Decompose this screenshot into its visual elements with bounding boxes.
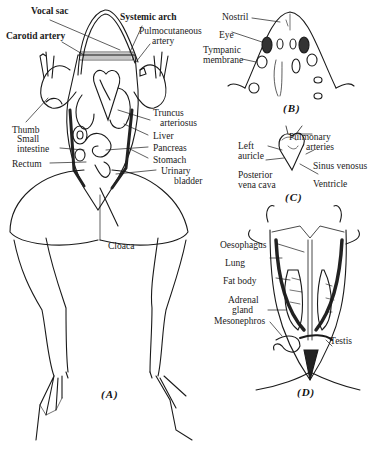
label-liver: Liver: [153, 131, 174, 141]
label-small-intestine-2: intestine: [17, 144, 49, 154]
label-adrenal-gland: Adrenal: [228, 295, 259, 305]
label-tympanic: Tympanic: [203, 45, 241, 55]
label-fat-body: Fat body: [223, 276, 257, 286]
label-adrenal-gland-2: gland: [232, 305, 253, 315]
label-pulmonary-2: arteries: [306, 142, 334, 152]
caption-c: (C): [285, 191, 303, 203]
label-lung: Lung: [225, 258, 245, 268]
label-truncus: Truncus: [153, 108, 184, 118]
label-urinary-bladder-2: bladder: [174, 176, 203, 186]
label-vocal-sac: Vocal sac: [31, 6, 68, 16]
label-small-intestine: Small: [17, 134, 39, 144]
panel-b-head-drawing: [228, 12, 354, 99]
label-nostril: Nostril: [222, 12, 248, 22]
label-mesonephros: Mesonephros: [214, 316, 265, 326]
label-rectum: Rectum: [12, 159, 42, 169]
label-posterior-vena-cava-2: vena cava: [238, 180, 276, 190]
panel-a-frog-drawing: [10, 10, 192, 440]
label-left-auricle: Left: [238, 141, 254, 151]
label-truncus-2: arteriosus: [160, 118, 197, 128]
label-testis: Testis: [330, 336, 352, 346]
caption-d: (D): [297, 386, 315, 398]
label-pulmonary: Pulmonary: [289, 132, 331, 142]
label-pulmocutaneous-2: artery: [152, 36, 174, 46]
label-oesophagus: Oesophagus: [220, 240, 266, 250]
label-cloaca: Cloaca: [108, 241, 134, 251]
label-pancreas: Pancreas: [153, 143, 187, 153]
label-tympanic-2: membrane: [203, 55, 243, 65]
label-pulmocutaneous: Pulmocutaneous: [139, 26, 202, 36]
label-eye: Eye: [219, 30, 234, 40]
label-systemic-arch: Systemic arch: [120, 12, 177, 22]
panel-d-dissection-drawing: [249, 206, 361, 390]
label-carotid-artery: Carotid artery: [6, 31, 65, 41]
caption-a: (A): [101, 388, 119, 400]
label-urinary-bladder: Urinary: [161, 166, 191, 176]
caption-b: (B): [283, 102, 301, 114]
frog-anatomy-illustration: [0, 0, 374, 452]
label-posterior-vena-cava: Posterior: [238, 170, 272, 180]
label-stomach: Stomach: [153, 155, 186, 165]
label-left-auricle-2: auricle: [238, 151, 264, 161]
label-sinus-venosus: Sinus venosus: [313, 161, 367, 171]
label-ventricle: Ventricle: [313, 179, 347, 189]
